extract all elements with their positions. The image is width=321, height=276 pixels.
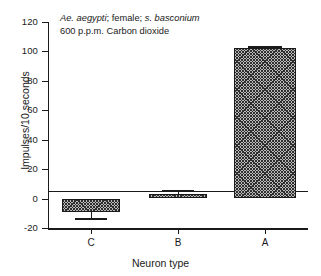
chart-annotation: Ae. aegypti; female; s. basconium600 p.p… [60,12,200,37]
x-tick [91,228,92,234]
bar [62,199,120,212]
annotation-text: s. basconium [145,13,200,23]
error-bar-cap [75,218,107,220]
annotation-text: ; female; [107,13,145,23]
x-tick-label: C [76,238,106,248]
x-tick-label: A [250,238,280,248]
x-tick [265,228,266,234]
y-tick [42,140,48,141]
y-tick [42,169,48,170]
x-tick-label: B [163,238,193,248]
y-tick [42,110,48,111]
y-axis-title: Impulses/10 seconds [20,36,31,206]
bar-chart-figure: 120100806040200-20 CBA Impulses/10 secon… [0,0,321,276]
y-tick-label: 0 [33,194,38,204]
bar [149,194,207,198]
annotation-text: 600 p.p.m. Carbon dioxide [60,26,169,36]
x-axis-title: Neuron type [0,258,321,269]
y-tick-label: 120 [22,17,38,27]
annotation-text: Ae. aegypti [60,13,107,23]
x-tick [178,228,179,234]
bar [234,48,296,198]
y-tick [42,51,48,52]
annotation-line: 600 p.p.m. Carbon dioxide [60,25,200,38]
y-tick [42,228,48,229]
y-tick [42,22,48,23]
error-bar-cap [162,190,194,192]
y-tick-label: -20 [24,223,38,233]
annotation-line: Ae. aegypti; female; s. basconium [60,12,200,25]
y-tick [42,81,48,82]
y-axis-line [48,22,49,229]
y-tick [42,199,48,200]
error-bar-cap [248,46,282,48]
